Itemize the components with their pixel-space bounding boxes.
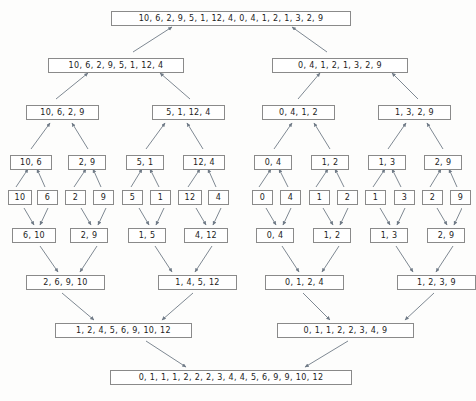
- node-leaf-11: 2: [337, 190, 358, 205]
- node-leaf-9: 4: [280, 190, 301, 205]
- node-split3-7: 2, 9: [424, 155, 462, 170]
- node-leaf-1: 6: [37, 190, 58, 205]
- node-split2-0: 10, 6, 2, 9: [26, 105, 99, 120]
- node-leaf-14: 2: [422, 190, 443, 205]
- node-split2-1: 5, 1, 12, 4: [152, 105, 225, 120]
- node-leaf-4: 5: [122, 190, 143, 205]
- node-merge3-left: 1, 2, 4, 5, 6, 9, 10, 12: [55, 323, 192, 338]
- node-merge2-3: 1, 2, 3, 9: [397, 275, 476, 290]
- node-split3-0: 10, 6: [10, 155, 52, 170]
- node-split3-5: 1, 2: [311, 155, 349, 170]
- node-leaf-0: 10: [8, 190, 32, 205]
- node-split1-left: 10, 6, 2, 9, 5, 1, 12, 4: [48, 58, 184, 73]
- node-merge1-7: 2, 9: [427, 228, 465, 243]
- node-leaf-7: 4: [208, 190, 229, 205]
- node-split3-2: 5, 1: [126, 155, 164, 170]
- node-split3-3: 12, 4: [183, 155, 225, 170]
- node-leaf-10: 1: [309, 190, 330, 205]
- node-merge1-6: 1, 3: [370, 228, 408, 243]
- node-leaf-6: 12: [178, 190, 202, 205]
- node-merge1-4: 0, 4: [256, 228, 294, 243]
- node-root: 10, 6, 2, 9, 5, 1, 12, 4, 0, 4, 1, 2, 1,…: [111, 11, 351, 26]
- node-merge1-5: 1, 2: [313, 228, 351, 243]
- node-split3-6: 1, 3: [368, 155, 406, 170]
- node-merge2-2: 0, 1, 2, 4: [265, 275, 344, 290]
- node-leaf-13: 3: [394, 190, 415, 205]
- node-split1-right: 0, 4, 1, 2, 1, 3, 2, 9: [272, 58, 408, 73]
- node-leaf-3: 9: [93, 190, 114, 205]
- node-leaf-2: 2: [65, 190, 86, 205]
- node-split3-1: 2, 9: [68, 155, 106, 170]
- node-merge1-0: 6, 10: [12, 228, 56, 243]
- node-merge2-1: 1, 4, 5, 12: [158, 275, 237, 290]
- node-merge2-0: 2, 6, 9, 10: [26, 275, 105, 290]
- node-merge1-2: 1, 5: [128, 228, 166, 243]
- node-leaf-8: 0: [252, 190, 273, 205]
- node-split2-3: 1, 3, 2, 9: [378, 105, 451, 120]
- node-leaf-12: 1: [365, 190, 386, 205]
- node-split2-2: 0, 4, 1, 2: [262, 105, 335, 120]
- node-leaf-5: 1: [150, 190, 171, 205]
- node-result: 0, 1, 1, 1, 2, 2, 2, 3, 4, 4, 5, 6, 9, 9…: [110, 370, 352, 385]
- node-merge1-3: 4, 12: [184, 228, 228, 243]
- node-leaf-15: 9: [450, 190, 471, 205]
- node-split3-4: 0, 4: [254, 155, 292, 170]
- node-merge3-right: 0, 1, 1, 2, 2, 3, 4, 9: [277, 323, 414, 338]
- node-merge1-1: 2, 9: [70, 228, 108, 243]
